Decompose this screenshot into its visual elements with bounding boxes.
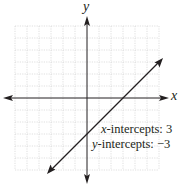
x-axis xyxy=(3,95,169,101)
x-intercept-text: -intercepts: 3 xyxy=(107,122,173,136)
y-axis xyxy=(84,16,90,184)
x-intercept-annotation: x-intercepts: 3 xyxy=(101,122,172,136)
y-intercept-annotation: y-intercepts: −3 xyxy=(92,137,170,151)
coordinate-plane xyxy=(0,0,182,186)
y-axis-label: y xyxy=(83,0,89,15)
x-axis-label: x xyxy=(171,88,177,104)
graphed-line xyxy=(47,58,163,174)
y-intercept-text: -intercepts: −3 xyxy=(98,137,171,151)
